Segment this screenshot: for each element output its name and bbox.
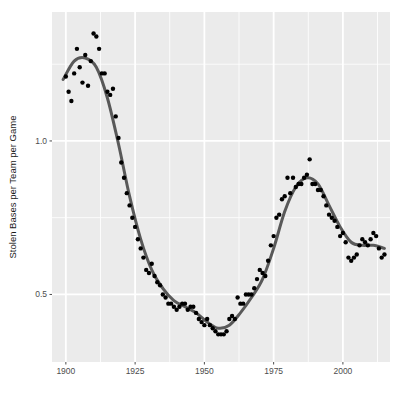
data-point xyxy=(382,252,386,256)
data-point xyxy=(355,252,359,256)
x-tick-label: 1900 xyxy=(56,366,75,376)
data-point xyxy=(150,262,154,266)
data-point xyxy=(111,87,115,91)
data-point xyxy=(80,80,84,84)
data-point xyxy=(191,305,195,309)
data-point xyxy=(241,301,245,305)
data-point xyxy=(108,93,112,97)
y-axis-title: Stolen Bases per Team per Game xyxy=(7,116,18,259)
data-point xyxy=(343,240,347,244)
data-point xyxy=(319,188,323,192)
data-point xyxy=(83,53,87,57)
data-point xyxy=(249,292,253,296)
data-point xyxy=(299,182,303,186)
data-point xyxy=(102,71,106,75)
data-point xyxy=(94,34,98,38)
x-tick-label: 1975 xyxy=(264,366,283,376)
data-point xyxy=(313,182,317,186)
data-point xyxy=(233,317,237,321)
data-point xyxy=(324,203,328,207)
data-point xyxy=(127,203,131,207)
data-point xyxy=(332,219,336,223)
data-point xyxy=(277,212,281,216)
data-point xyxy=(335,225,339,229)
data-point xyxy=(152,274,156,278)
data-point xyxy=(138,246,142,250)
data-point xyxy=(235,295,239,299)
data-point xyxy=(147,271,151,275)
y-tick-label: 1.0 xyxy=(35,136,47,146)
data-point xyxy=(307,157,311,161)
data-point xyxy=(252,286,256,290)
data-point xyxy=(97,47,101,51)
data-point xyxy=(64,74,68,78)
data-point xyxy=(288,191,292,195)
data-point xyxy=(255,277,259,281)
data-point xyxy=(183,301,187,305)
data-point xyxy=(141,255,145,259)
data-point xyxy=(75,47,79,51)
data-point xyxy=(224,329,228,333)
data-point xyxy=(285,176,289,180)
data-point xyxy=(116,136,120,140)
x-tick-label: 1950 xyxy=(195,366,214,376)
data-point xyxy=(341,231,345,235)
data-point xyxy=(266,258,270,262)
data-point xyxy=(125,191,129,195)
data-point xyxy=(374,234,378,238)
data-point xyxy=(357,243,361,247)
data-point xyxy=(202,323,206,327)
data-point xyxy=(114,114,118,118)
data-point xyxy=(263,274,267,278)
data-point xyxy=(321,194,325,198)
data-point xyxy=(69,99,73,103)
data-point xyxy=(72,71,76,75)
scatter-plot-svg: 0.51.0 19001925195019752000 Stolen Bases… xyxy=(0,0,412,409)
data-point xyxy=(283,194,287,198)
data-point xyxy=(271,234,275,238)
data-point xyxy=(305,173,309,177)
data-point xyxy=(163,295,167,299)
data-point xyxy=(119,160,123,164)
y-tick-label: 0.5 xyxy=(35,289,47,299)
data-point xyxy=(368,237,372,241)
chart-container: 0.51.0 19001925195019752000 Stolen Bases… xyxy=(0,0,412,409)
data-point xyxy=(122,176,126,180)
x-tick-label: 1925 xyxy=(126,366,145,376)
data-point xyxy=(136,237,140,241)
data-point xyxy=(269,243,273,247)
data-point xyxy=(205,317,209,321)
data-point xyxy=(130,216,134,220)
data-point xyxy=(133,225,137,229)
data-point xyxy=(78,65,82,69)
x-tick-label: 2000 xyxy=(333,366,352,376)
data-point xyxy=(366,243,370,247)
data-point xyxy=(158,283,162,287)
data-point xyxy=(377,246,381,250)
data-point xyxy=(89,59,93,63)
data-point xyxy=(86,83,90,87)
data-point xyxy=(194,311,198,315)
data-point xyxy=(66,90,70,94)
data-point xyxy=(291,176,295,180)
